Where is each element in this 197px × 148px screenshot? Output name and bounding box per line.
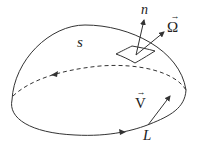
surface-patch (116, 46, 155, 63)
surface-label: s (77, 35, 83, 50)
dashed-curve-arrow-icon (51, 71, 58, 77)
boundary-curve-L (12, 90, 186, 135)
velocity-label: V (135, 96, 146, 111)
boundary-label: L (143, 128, 151, 143)
surface-diagram: s n → Ω → V L (0, 0, 197, 148)
normal-label: n (141, 3, 148, 17)
dashed-back-curve (13, 65, 186, 96)
surface-dome-outline (12, 25, 186, 100)
boundary-arrow-icon (119, 129, 126, 135)
omega-label: Ω (167, 20, 178, 35)
